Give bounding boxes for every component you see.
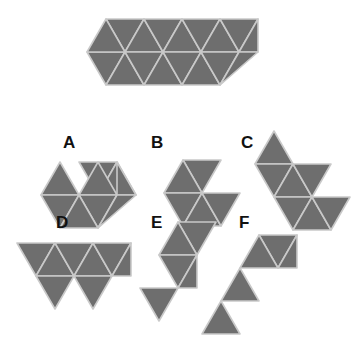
option-c-label: C: [241, 133, 253, 152]
triangle-puzzle-figure: A B C: [0, 0, 354, 357]
option-b-label: B: [151, 133, 163, 152]
target-hexagon-strip: [87, 19, 258, 85]
option-f-label: F: [239, 213, 249, 232]
puzzle-canvas: A B C: [0, 0, 354, 357]
option-d-label: D: [56, 213, 68, 232]
option-a-label: A: [63, 133, 75, 152]
option-e-label: E: [151, 213, 162, 232]
